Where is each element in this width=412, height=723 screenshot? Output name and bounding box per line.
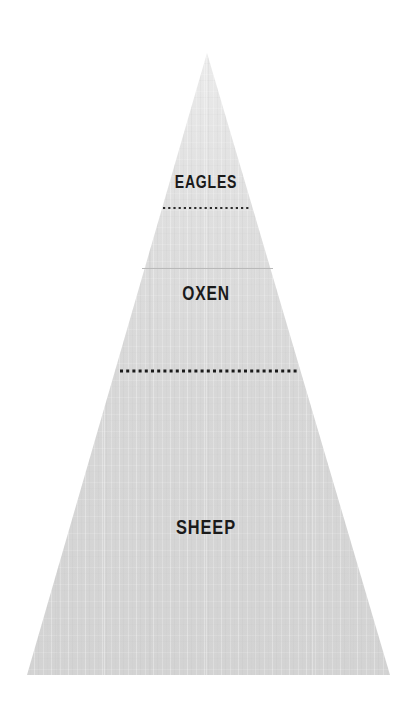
tier-label-oxen: OXEN — [45, 283, 366, 303]
pyramid-diagram: EAGLES OXEN SHEEP — [0, 0, 412, 723]
pyramid-shape — [0, 0, 412, 723]
pyramid-body — [0, 0, 412, 723]
tier-label-sheep: SHEEP — [45, 516, 366, 537]
tier-label-eagles: EAGLES — [45, 173, 366, 191]
